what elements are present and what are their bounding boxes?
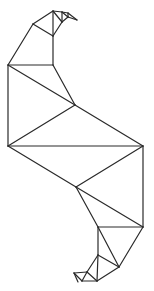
- edge-line: [75, 105, 143, 146]
- triangulated-shape-figure: [0, 0, 154, 291]
- edge-line: [8, 65, 75, 105]
- edge-line: [33, 24, 53, 36]
- edge-line: [53, 11, 62, 22]
- edge-line: [74, 272, 87, 273]
- edge-line: [8, 146, 76, 187]
- edge-line: [97, 267, 119, 281]
- edge-line: [76, 187, 143, 227]
- edge-line: [97, 255, 98, 281]
- edge-line: [87, 272, 97, 281]
- edge-line: [8, 105, 75, 146]
- edge-line: [53, 22, 62, 36]
- triangulated-shape-drawing: [0, 0, 154, 291]
- edge-line: [82, 272, 87, 281]
- edge-line: [119, 227, 143, 267]
- edge-line: [76, 146, 143, 187]
- edge-line: [87, 255, 98, 272]
- edge-line: [8, 24, 33, 65]
- edge-line: [33, 11, 53, 24]
- edge-line: [62, 17, 68, 22]
